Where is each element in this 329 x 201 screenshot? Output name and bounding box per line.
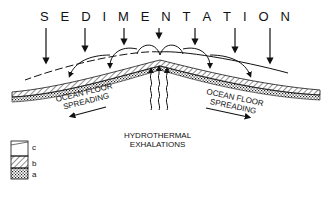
hydrothermal-lines [150,68,167,110]
legend-key-c: c [32,143,36,152]
legend-box [11,141,28,179]
diagram-graphic [0,0,329,201]
sedimentation-arrows [46,28,270,61]
hydrothermal-label: HYDROTHERMAL EXHALATIONS [124,131,191,149]
left-spreading-arrow [72,107,106,116]
label-line: EXHALATIONS [124,140,191,149]
legend-key-b: b [32,159,36,168]
legend-key-a: a [32,170,36,179]
label-line: HYDROTHERMAL [124,131,191,140]
